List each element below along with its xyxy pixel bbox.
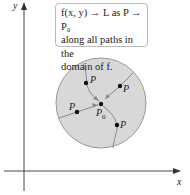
label-p-right: P (123, 83, 129, 94)
callout-line-1: f(x, y) → L as P → P₀ (61, 6, 147, 33)
point-p (118, 84, 122, 88)
point-p (75, 110, 79, 114)
point-p (84, 81, 88, 85)
limit-callout: f(x, y) → L as P → P₀ along all paths in… (55, 3, 148, 47)
callout-line-3: domain of f. (61, 60, 147, 74)
label-p-top: P (90, 74, 96, 85)
callout-line-2: along all paths in the (61, 33, 147, 60)
point-p (115, 123, 119, 127)
label-p0: P0 (96, 107, 106, 121)
y-axis-arrow-icon (21, 2, 27, 10)
x-axis-label: x (177, 176, 181, 187)
label-p-bottom: P (120, 119, 126, 130)
y-axis-label: y (13, 0, 17, 11)
x-axis-arrow-icon (173, 168, 181, 174)
point-p0 (99, 102, 103, 106)
label-p-left: P (69, 101, 75, 112)
